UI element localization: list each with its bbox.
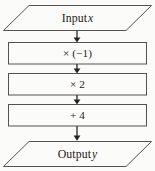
- connector-op3-to-output: [74, 126, 81, 141]
- node-op1-label: × (−1): [0, 48, 155, 59]
- node-input-variable: x: [87, 12, 93, 24]
- node-output-variable: y: [91, 148, 97, 160]
- node-input-text: Input: [62, 11, 87, 25]
- connector-op1-to-op2: [74, 64, 81, 74]
- node-op2-label: × 2: [0, 79, 155, 90]
- node-output-text: Output: [58, 147, 91, 161]
- connector-op2-to-op3: [74, 95, 81, 105]
- flowchart-diagram: Inputx × (−1) × 2 + 4 Outputy: [0, 0, 155, 171]
- connector-input-to-op1: [74, 31, 81, 43]
- node-input-label: Inputx: [0, 13, 155, 25]
- node-output-label: Outputy: [0, 149, 155, 161]
- node-op3-label: + 4: [0, 110, 155, 121]
